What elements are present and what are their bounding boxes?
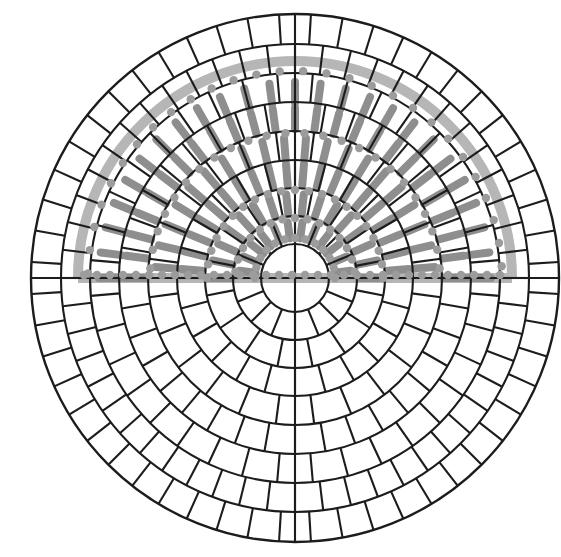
overlay-dot <box>343 203 351 211</box>
mesh-radial-line <box>529 292 559 294</box>
overlay-dot <box>368 82 376 90</box>
overlay-dot <box>256 254 264 262</box>
mesh-radial-line <box>69 141 95 157</box>
mesh-radial-line <box>411 447 427 471</box>
mesh-radial-line <box>97 324 125 332</box>
overlay-dot <box>153 227 161 235</box>
overlay-rod <box>138 213 157 221</box>
overlay-rod <box>383 108 394 126</box>
mesh-radial-line <box>455 352 481 364</box>
mesh-radial-line <box>149 293 178 297</box>
overlay-dot <box>300 129 308 137</box>
mesh-radial-line <box>91 293 120 296</box>
overlay-dot <box>271 239 279 247</box>
overlay-baseline-dot <box>301 271 309 279</box>
overlay-dot <box>482 194 490 202</box>
overlay-dot <box>252 263 260 271</box>
overlay-baseline-dot <box>119 271 127 279</box>
overlay-baseline-dot <box>379 271 387 279</box>
mesh-radial-line <box>340 387 351 414</box>
mesh-radial-line <box>264 105 269 134</box>
mesh-radial-line <box>465 324 493 332</box>
overlay-dot <box>378 260 386 268</box>
mesh-radial-line <box>108 443 129 464</box>
mesh-radial-line <box>440 304 469 309</box>
overlay-dot <box>318 190 326 198</box>
mesh-radial-line <box>120 414 142 433</box>
mesh-radial-line <box>494 327 522 334</box>
mesh-radial-line <box>340 356 354 380</box>
overlay-rod <box>443 256 464 259</box>
mesh-radial-line <box>347 312 370 328</box>
mesh-radial-line <box>321 105 326 134</box>
mesh-radial-line <box>235 416 245 443</box>
overlay-rod <box>388 269 409 271</box>
overlay-rod <box>269 198 275 217</box>
mesh-radial-line <box>236 356 250 380</box>
overlay-rod <box>218 244 236 252</box>
overlay-dot <box>490 216 498 224</box>
mesh-radial-line <box>245 330 261 353</box>
overlay-dot <box>362 222 370 230</box>
overlay-rod <box>381 234 400 242</box>
overlay-baseline-dot <box>457 271 465 279</box>
overlay-rod <box>269 84 272 105</box>
overlay-baseline-dot <box>483 271 491 279</box>
overlay-rod <box>253 205 263 222</box>
overlay-dot <box>495 239 503 247</box>
overlay-dot <box>331 195 339 203</box>
mesh-radial-line <box>251 302 271 322</box>
mesh-radial-line <box>130 328 157 338</box>
overlay-rod <box>230 121 238 140</box>
mesh-radial-line <box>69 399 95 415</box>
mesh-radial-line <box>518 348 547 357</box>
overlay-dot <box>133 140 141 148</box>
polar-mesh-svg <box>0 0 561 557</box>
overlay-rod <box>314 109 317 130</box>
overlay-dot <box>319 246 327 254</box>
overlay-rod <box>239 216 252 231</box>
mesh-radial-line <box>43 199 72 208</box>
mesh-radial-line <box>495 399 521 415</box>
overlay-dot <box>315 219 323 227</box>
mesh-radial-line <box>365 501 374 530</box>
mesh-radial-line <box>108 91 129 112</box>
overlay-dot <box>291 214 299 222</box>
mesh-radial-line <box>404 323 431 334</box>
mesh-radial-line <box>525 320 555 325</box>
mesh-radial-line <box>319 302 339 322</box>
overlay-dot <box>299 67 307 75</box>
overlay-dot <box>374 247 382 255</box>
mesh-radial-line <box>35 230 65 235</box>
mesh-radial-line <box>159 323 186 334</box>
overlay-dot <box>428 227 436 235</box>
mesh-radial-line <box>182 391 201 413</box>
mesh-radial-line <box>470 293 499 296</box>
mesh-radial-line <box>277 453 280 482</box>
overlay-rod <box>288 222 290 238</box>
overlay-dot <box>348 255 356 263</box>
mesh-radial-line <box>208 438 220 464</box>
mesh-radial-line <box>344 477 351 505</box>
mesh-radial-line <box>76 351 103 361</box>
mesh-radial-line <box>422 352 447 367</box>
overlay-baseline-dot <box>262 271 270 279</box>
overlay-dot <box>337 136 345 144</box>
mesh-radial-line <box>508 374 535 386</box>
overlay-dot <box>227 144 235 152</box>
mesh-radial-line <box>216 26 225 55</box>
mesh-radial-line <box>271 309 282 335</box>
overlay-dot <box>433 246 441 254</box>
overlay-dot <box>369 234 377 242</box>
mesh-radial-line <box>238 291 264 302</box>
mesh-radial-line <box>433 328 460 338</box>
overlay-rod <box>197 108 208 126</box>
overlay-baseline-dot <box>158 271 166 279</box>
overlay-dot <box>325 254 333 262</box>
overlay-dot <box>244 136 252 144</box>
mesh-radial-line <box>276 395 280 424</box>
overlay-baseline-dot <box>249 271 257 279</box>
overlay-rod <box>469 252 490 255</box>
mesh-radial-line <box>389 391 408 413</box>
overlay-rod <box>273 109 276 130</box>
